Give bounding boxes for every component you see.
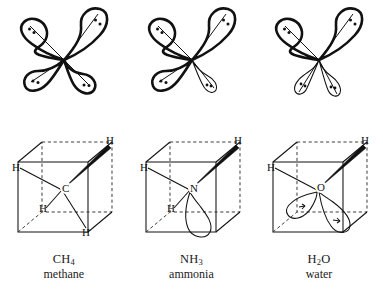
bonding-lobe-upper-right [192, 8, 235, 60]
formula-main: NH [180, 252, 198, 266]
electron-dot [98, 23, 101, 26]
bonding-lobe-lower-left [152, 60, 192, 91]
electron-dot [283, 28, 286, 31]
central-atom-label: O [317, 181, 325, 193]
hydrogen-label: H [234, 134, 242, 146]
electron-dot [156, 28, 159, 31]
electron-dot [82, 83, 85, 86]
name-ammonia: ammonia [128, 267, 256, 281]
ammonia-cube-geometry: H H H N [128, 128, 256, 248]
central-atom-label: C [62, 182, 69, 194]
formula-main: H [308, 252, 317, 266]
methane-sp3-orbitals [0, 0, 128, 122]
formula-water: H2O [255, 252, 383, 267]
formula-methane: CH4 [0, 252, 128, 267]
water-cube-geometry: H H O [255, 128, 383, 248]
bonding-lobe-upper-right [64, 8, 107, 60]
electron-dot [226, 23, 229, 26]
molecular-geometry-figure: H H H H C CH4 methane [0, 0, 383, 303]
bonding-lobe-upper-right [319, 8, 362, 60]
electron-dot [28, 28, 31, 31]
hydrogen-label: H [167, 202, 175, 214]
lone-pair-lobe-right [319, 192, 350, 232]
bonding-lobe-lower-left [24, 60, 64, 91]
column-methane: H H H H C CH4 methane [0, 0, 128, 303]
orbital-center-stems [158, 14, 226, 88]
hydrogen-label: H [140, 161, 148, 173]
formula-subscript: 3 [198, 257, 202, 267]
electron-dot [205, 84, 208, 87]
hydrogen-label: H [267, 161, 275, 173]
label-block-ammonia: NH3 ammonia [128, 252, 256, 281]
electron-dot [304, 85, 307, 88]
methane-cube-geometry: H H H H C [0, 128, 128, 248]
electron-dot [354, 23, 357, 26]
formula-main-2: O [321, 252, 330, 266]
column-water: H H O H2O water [255, 0, 383, 303]
hydrogen-label: H [82, 226, 90, 238]
electron-dot [36, 81, 39, 84]
electron-dot [300, 83, 303, 86]
electron-dot [164, 81, 167, 84]
name-methane: methane [0, 267, 128, 281]
hydrogen-label: H [12, 161, 20, 173]
electron-dot [330, 86, 333, 89]
water-sp3-orbitals [255, 0, 383, 122]
column-ammonia: H H H N NH3 ammonia [128, 0, 256, 303]
label-block-methane: CH4 methane [0, 252, 128, 281]
hydrogen-label: H [39, 202, 47, 214]
name-water: water [255, 267, 383, 281]
formula-ammonia: NH3 [128, 252, 256, 267]
ammonia-sp3-orbitals [128, 0, 256, 122]
lone-pair-lobe [185, 192, 210, 237]
lone-pair-lobe-left [287, 192, 317, 218]
formula-main: CH [53, 252, 71, 266]
hydrogen-label: H [106, 134, 114, 146]
hydrogen-label: H [361, 134, 369, 146]
formula-subscript: 2 [317, 257, 321, 267]
formula-subscript: 4 [70, 257, 74, 267]
label-block-water: H2O water [255, 252, 383, 281]
central-atom-label: N [190, 182, 198, 194]
